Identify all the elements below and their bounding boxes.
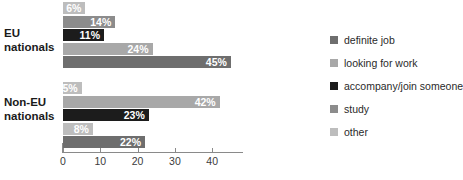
legend-swatch-icon — [330, 36, 338, 44]
bar-value-label: 24% — [128, 43, 149, 55]
bar-value-label: 11% — [80, 29, 100, 41]
bar[interactable]: 24% — [63, 43, 153, 55]
bar-value-label: 6% — [66, 2, 81, 14]
axis-tick — [138, 148, 139, 153]
axis-tick-label: 20 — [132, 155, 144, 167]
bar[interactable]: 45% — [63, 56, 231, 68]
group-label-line2: nationals — [4, 109, 62, 123]
x-axis-line — [63, 152, 243, 153]
bar[interactable]: 14% — [63, 16, 115, 28]
axis-tick — [100, 148, 101, 153]
legend-item-label: other — [344, 126, 368, 138]
bar[interactable]: 42% — [63, 96, 220, 108]
axis-tick-label: 40 — [206, 155, 218, 167]
bar[interactable]: 5% — [63, 82, 82, 94]
bar-value-label: 22% — [120, 136, 141, 148]
bar-value-label: 45% — [206, 56, 227, 68]
axis-tick-label: 10 — [94, 155, 106, 167]
chart-legend: definite joblooking for workaccompany/jo… — [330, 30, 456, 145]
legend-swatch-icon — [330, 59, 338, 67]
legend-swatch-icon — [330, 105, 338, 113]
legend-swatch-icon — [330, 82, 338, 90]
legend-item[interactable]: definite job — [330, 30, 456, 49]
bar[interactable]: 22% — [63, 136, 145, 148]
legend-item-label: looking for work — [344, 57, 418, 69]
bar-value-label: 8% — [74, 123, 89, 135]
legend-item-label: study — [344, 103, 369, 115]
group-label-eu-nationals: EU nationals — [4, 26, 62, 54]
bar-value-label: 23% — [124, 109, 145, 121]
group-label-line1: Non-EU — [4, 95, 62, 109]
legend-item-label: definite job — [344, 34, 395, 46]
legend-item[interactable]: study — [330, 99, 456, 118]
plot-area: 6%14%11%24%45%5%42%23%8%22% — [63, 0, 235, 152]
bar[interactable]: 6% — [63, 2, 85, 14]
group-label-line2: nationals — [4, 40, 62, 54]
axis-tick — [63, 148, 64, 153]
bar-value-label: 42% — [195, 96, 216, 108]
axis-tick — [212, 148, 213, 153]
axis-tick-label: 30 — [169, 155, 181, 167]
bar-value-label: 5% — [62, 82, 77, 94]
bar[interactable]: 8% — [63, 123, 93, 135]
bar-value-label: 14% — [90, 16, 111, 28]
group-label-non-eu-nationals: Non-EU nationals — [4, 95, 62, 123]
legend-swatch-icon — [330, 128, 338, 136]
axis-tick-label: 0 — [60, 155, 66, 167]
legend-item[interactable]: looking for work — [330, 53, 456, 72]
legend-item[interactable]: accompany/join someone — [330, 76, 456, 95]
axis-tick — [175, 148, 176, 153]
group-label-line1: EU — [4, 26, 62, 40]
bar[interactable]: 11% — [63, 29, 104, 41]
bar[interactable]: 23% — [63, 109, 149, 121]
legend-item[interactable]: other — [330, 122, 456, 141]
legend-item-label: accompany/join someone — [344, 80, 463, 92]
